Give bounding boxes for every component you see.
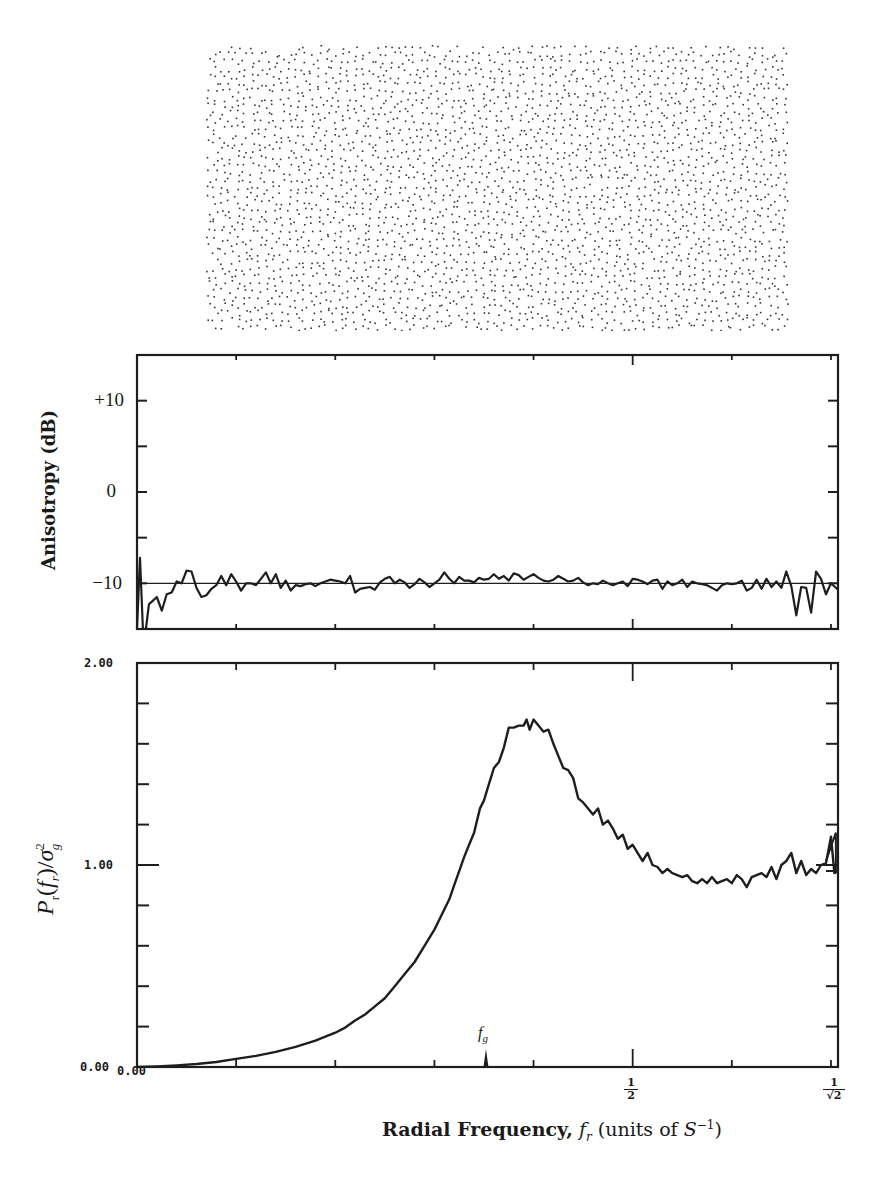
power-xtick-origin: 0.00 [117, 1064, 146, 1078]
x-axis-label: Radial Frequency, fr (units of S−1) [382, 1118, 722, 1144]
xtick-one-over-root2: 1 √2 [823, 1077, 845, 1102]
power-spectrum-curve [137, 720, 838, 1067]
anisotropy-curve [137, 558, 838, 629]
aniso-ytick-plus10: +10 [76, 389, 124, 411]
power-ytick-0: 0.00 [80, 1060, 109, 1074]
anisotropy-y-axis-label: Anisotropy (dB) [38, 410, 59, 570]
fg-marker-label: fg [478, 1024, 488, 1044]
fg-arrow-icon [483, 1049, 488, 1067]
power-spectrum-plot [0, 650, 877, 1080]
power-plot-frame [137, 663, 838, 1067]
power-ytick-1: 1.00 [84, 858, 113, 872]
power-y-axis-label: Pr(fr)/σ2g [32, 844, 63, 915]
power-ytick-2: 2.00 [84, 656, 113, 670]
aniso-ytick-0: 0 [76, 480, 116, 502]
dots-group [206, 45, 789, 331]
aniso-ytick-minus10: −10 [76, 572, 122, 594]
blue-noise-dot-pattern [205, 44, 791, 331]
xtick-one-half: 1 2 [624, 1077, 638, 1102]
anisotropy-plot [0, 340, 877, 640]
